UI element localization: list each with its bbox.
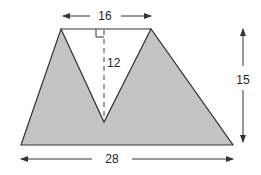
bottom-width-label: 28 <box>105 152 119 166</box>
notch-height-label: 12 <box>107 56 121 70</box>
total-height-label: 15 <box>236 73 250 87</box>
geometry-diagram: 16 12 15 28 <box>0 0 261 175</box>
shaded-region <box>21 29 233 145</box>
top-width-label: 16 <box>98 9 112 23</box>
right-angle-mark <box>96 29 104 37</box>
